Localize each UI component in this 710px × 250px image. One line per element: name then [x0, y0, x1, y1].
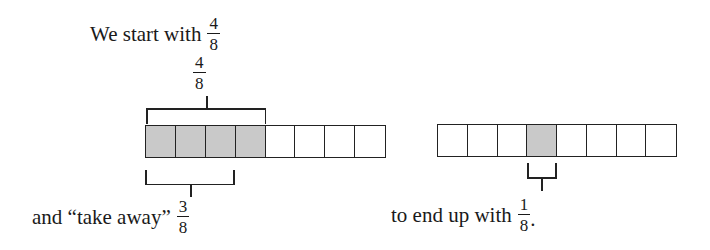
left-fraction-strip [145, 125, 386, 158]
fraction-numerator: 4 [193, 54, 206, 72]
strip-cell [557, 125, 587, 156]
bottom-left-caption: and “take away” 3 8 [32, 198, 189, 236]
strip-cell [325, 126, 355, 157]
top-brace-fraction: 4 8 [193, 54, 206, 92]
caption-period: . [530, 209, 535, 230]
bottom-brace-stem [190, 184, 192, 197]
fraction-numerator: 3 [177, 198, 190, 216]
strip-cell [587, 125, 617, 156]
strip-cell-shaded [206, 126, 236, 157]
strip-cell [498, 125, 528, 156]
strip-cell [468, 125, 498, 156]
top-brace-left-leg [146, 108, 148, 124]
small-brace-left-leg [527, 163, 529, 178]
top-brace-right-leg [265, 108, 267, 124]
strip-cell-shaded [236, 126, 266, 157]
fraction-denominator: 8 [177, 217, 190, 236]
fraction-denominator: 8 [207, 34, 220, 53]
strip-cell-shaded [146, 126, 176, 157]
bottom-right-caption-fraction: 1 8 [518, 196, 531, 234]
bottom-right-caption-text: to end up with [391, 205, 512, 226]
bottom-left-caption-text: and “take away” [32, 207, 171, 228]
top-caption-text: We start with [90, 24, 201, 45]
strip-cell-shaded [176, 126, 206, 157]
fraction-numerator: 4 [207, 15, 220, 33]
bottom-right-caption: to end up with 1 8 . [391, 196, 536, 234]
small-brace-right-leg [555, 163, 557, 178]
strip-cell [438, 125, 468, 156]
strip-cell [646, 125, 676, 156]
strip-cell [295, 126, 325, 157]
strip-cell [617, 125, 647, 156]
fraction-numerator: 1 [518, 196, 531, 214]
top-caption-fraction: 4 8 [207, 15, 220, 53]
top-brace-label: 4 8 [193, 54, 206, 92]
strip-cell [355, 126, 385, 157]
strip-cell-shaded [527, 125, 557, 156]
fraction-denominator: 8 [193, 73, 206, 92]
fraction-denominator: 8 [518, 215, 531, 234]
strip-cell [266, 126, 296, 157]
right-fraction-strip [437, 124, 677, 157]
top-brace-horizontal [146, 108, 266, 110]
top-caption: We start with 4 8 [90, 15, 220, 53]
bottom-left-caption-fraction: 3 8 [177, 198, 190, 236]
small-brace-stem [541, 177, 543, 191]
